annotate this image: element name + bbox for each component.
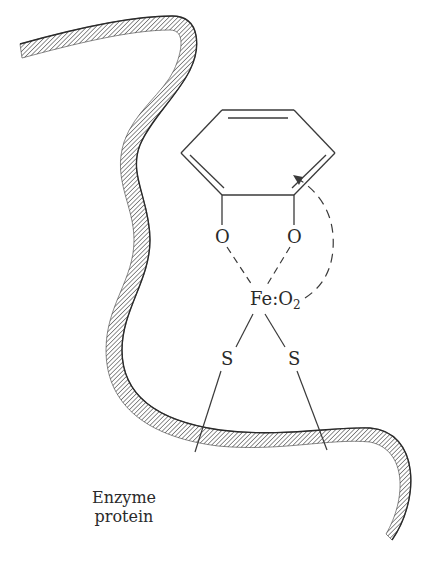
bond-fe-s-right — [265, 314, 285, 347]
enzyme-diagram: O O Fe:O2 S S Enzyme protein — [0, 0, 436, 563]
protein-ribbon-shadow-edge — [20, 16, 411, 540]
caption-line-2: protein — [84, 507, 164, 526]
o2-subscript: 2 — [293, 298, 301, 312]
arrowhead-icon — [293, 175, 303, 185]
coord-o-fe-right — [267, 247, 290, 285]
oxygen-transfer-arrow — [300, 180, 333, 298]
benzene-ring — [181, 110, 335, 195]
sulfur-left-label: S — [221, 350, 233, 368]
oxygen-right-label: O — [287, 228, 302, 246]
enzyme-protein-caption: Enzyme protein — [84, 488, 164, 526]
sulfur-right-label: S — [288, 350, 300, 368]
coord-o-fe-left — [227, 247, 252, 285]
iron-oxygen-complex-label: Fe:O2 — [250, 290, 301, 311]
o2-label: O — [278, 288, 293, 309]
iron-label: Fe — [250, 288, 272, 309]
diagram-graphics — [0, 0, 436, 563]
caption-line-1: Enzyme — [84, 488, 164, 507]
protein-ribbon — [20, 16, 411, 540]
bond-fe-s-left — [236, 314, 253, 347]
oxygen-left-label: O — [215, 228, 230, 246]
